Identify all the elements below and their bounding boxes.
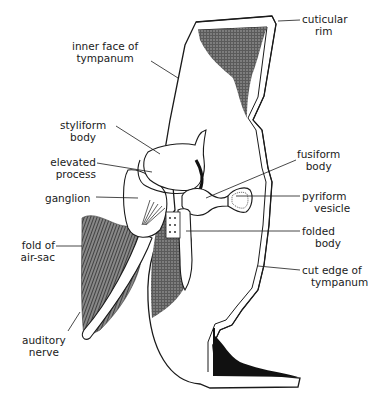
label-folded-body: folded body xyxy=(302,225,341,249)
diagram-canvas: inner face of tympanum cuticular rim sty… xyxy=(0,0,384,402)
lower-dark-region xyxy=(214,335,298,377)
label-line: ganglion xyxy=(45,192,90,204)
label-line: rim xyxy=(302,25,348,37)
label-fusiform-body: fusiform body xyxy=(297,148,340,172)
leader-cuticular-rim xyxy=(278,20,300,21)
label-line: body xyxy=(302,237,341,249)
label-line: elevated xyxy=(44,156,96,168)
leader-cut-edge xyxy=(258,266,300,270)
label-line: nerve xyxy=(22,346,66,358)
label-auditory-nerve: auditory nerve xyxy=(22,334,66,358)
label-line: auditory xyxy=(22,334,66,346)
label-styliform-body: styliform body xyxy=(60,119,106,143)
label-line: inner face of xyxy=(72,40,138,52)
label-ganglion: ganglion xyxy=(45,192,90,204)
label-line: tympanum xyxy=(72,52,138,64)
label-elevated-process: elevated process xyxy=(44,156,96,180)
label-line: vesicle xyxy=(302,202,350,214)
folded-body-box xyxy=(166,212,180,238)
label-cut-edge-of-tympanum: cut edge of tympanum xyxy=(302,264,368,288)
leader-inner-face xyxy=(151,61,178,78)
label-line: air-sac xyxy=(10,251,55,263)
label-fold-of-air-sac: fold of air-sac xyxy=(10,239,55,263)
leader-styliform-body xyxy=(116,126,160,154)
label-line: cuticular xyxy=(302,13,348,25)
pyriform-vesicle-shape xyxy=(228,188,252,212)
label-line: fusiform xyxy=(297,148,340,160)
label-line: pyriform xyxy=(302,190,350,202)
label-line: cut edge of xyxy=(302,264,368,276)
label-line: body xyxy=(297,160,340,172)
label-line: tympanum xyxy=(302,276,368,288)
label-line: folded xyxy=(302,225,341,237)
label-line: process xyxy=(44,168,96,180)
label-line: styliform xyxy=(60,119,106,131)
label-pyriform-vesicle: pyriform vesicle xyxy=(302,190,350,214)
label-cuticular-rim: cuticular rim xyxy=(302,13,348,37)
leader-auditory-nerve xyxy=(68,312,80,331)
label-inner-face-of-tympanum: inner face of tympanum xyxy=(72,40,138,64)
label-line: fold of xyxy=(10,239,55,251)
label-line: body xyxy=(60,131,106,143)
